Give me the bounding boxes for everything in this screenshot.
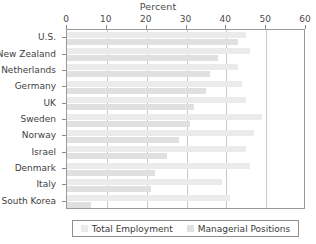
y-tick-label: New Zealand xyxy=(0,49,62,59)
y-tick-label: South Korea xyxy=(1,196,62,206)
bar-total-employment xyxy=(67,48,250,54)
y-tick-mark xyxy=(62,168,66,169)
y-tick-mark xyxy=(62,70,66,71)
x-tick-label: 30 xyxy=(173,14,199,24)
chart-legend: Total EmploymentManagerial Positions xyxy=(72,220,299,237)
gridline xyxy=(266,30,267,208)
bar-total-employment xyxy=(67,64,238,70)
bar-total-employment xyxy=(67,97,246,103)
bar-managerial-positions xyxy=(67,39,238,45)
y-axis-category-labels: U.S.New ZealandNetherlandsGermanyUKSwede… xyxy=(0,0,62,244)
y-tick-mark xyxy=(62,135,66,136)
y-tick-mark xyxy=(62,86,66,87)
y-tick-label: Israel xyxy=(31,147,62,157)
x-tick-label: 60 xyxy=(292,14,316,24)
x-tick-mark xyxy=(305,25,306,29)
y-tick-label: U.S. xyxy=(38,32,62,42)
legend-swatch xyxy=(187,225,194,232)
y-tick-label: UK xyxy=(44,98,63,108)
y-tick-label: Denmark xyxy=(15,163,62,173)
bar-managerial-positions xyxy=(67,186,151,192)
bar-managerial-positions xyxy=(67,55,218,61)
x-tick-label: 40 xyxy=(212,14,238,24)
bar-chart: Percent 0102030405060 U.S.New ZealandNet… xyxy=(0,0,316,244)
y-tick-label: Germany xyxy=(15,81,62,91)
legend-label: Total Employment xyxy=(92,224,173,234)
bar-total-employment xyxy=(67,195,230,201)
x-tick-label: 50 xyxy=(252,14,278,24)
bar-managerial-positions xyxy=(67,88,206,94)
bar-total-employment xyxy=(67,114,262,120)
y-tick-mark xyxy=(62,152,66,153)
legend-swatch xyxy=(81,225,88,232)
y-tick-mark xyxy=(62,184,66,185)
bar-managerial-positions xyxy=(67,71,210,77)
bar-total-employment xyxy=(67,32,246,38)
bar-managerial-positions xyxy=(67,153,167,159)
bar-total-employment xyxy=(67,81,242,87)
y-tick-mark xyxy=(62,119,66,120)
y-tick-mark xyxy=(62,54,66,55)
bar-total-employment xyxy=(67,179,222,185)
legend-item[interactable]: Managerial Positions xyxy=(187,224,291,234)
y-tick-label: Netherlands xyxy=(1,65,62,75)
bar-managerial-positions xyxy=(67,121,190,127)
bar-total-employment xyxy=(67,146,246,152)
bar-managerial-positions xyxy=(67,104,194,110)
x-tick-label: 10 xyxy=(93,14,119,24)
y-tick-mark xyxy=(62,201,66,202)
bar-managerial-positions xyxy=(67,137,179,143)
legend-label: Managerial Positions xyxy=(198,224,291,234)
x-tick-label: 20 xyxy=(133,14,159,24)
y-tick-mark xyxy=(62,103,66,104)
bar-total-employment xyxy=(67,163,250,169)
bar-managerial-positions xyxy=(67,202,91,208)
bar-managerial-positions xyxy=(67,170,155,176)
bar-total-employment xyxy=(67,130,254,136)
y-tick-label: Italy xyxy=(36,179,62,189)
y-tick-label: Norway xyxy=(22,130,62,140)
legend-item[interactable]: Total Employment xyxy=(81,224,173,234)
y-tick-label: Sweden xyxy=(20,114,62,124)
plot-area xyxy=(66,29,305,209)
y-tick-mark xyxy=(62,37,66,38)
